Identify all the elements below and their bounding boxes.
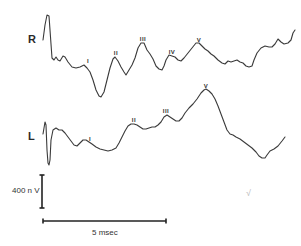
voltage-scale-label: 400 n V [12,186,40,195]
peak-label-r-iv: IV [169,49,176,55]
voltage-scale-bar [40,175,45,208]
peak-label-r-ii: II [114,50,118,56]
peak-label-r-i: I [87,58,89,64]
right-trace-label: R [28,33,36,45]
abr-waveform-figure: R L IIIIIIIVVIIIIIIV 400 n V 5 msec √ [0,0,301,246]
right-ear-trace [43,15,295,97]
peak-label-l-iii: III [163,108,170,114]
peak-label-r-v: V [197,37,202,43]
waveform-canvas [0,0,301,246]
peak-label-l-v: V [204,83,209,89]
handwritten-check-mark: √ [246,188,251,198]
peak-label-l-i: I [89,136,91,142]
time-scale-label: 5 msec [92,228,118,237]
left-trace-label: L [28,130,35,142]
peak-label-l-ii: II [132,117,136,123]
time-scale-bar [43,219,166,224]
left-ear-trace [43,89,285,165]
peak-label-r-iii: III [140,36,147,42]
